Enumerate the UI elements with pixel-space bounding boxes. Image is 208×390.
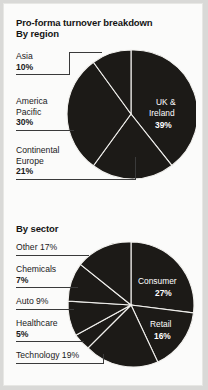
page-subtitle: By region bbox=[16, 28, 59, 40]
callout-america-pacific-value: 30% bbox=[16, 117, 48, 128]
pie-label-consumer: Consumer bbox=[138, 276, 177, 286]
callout-technology-label: Technology 19% bbox=[16, 350, 79, 360]
callout-asia: Asia 10% bbox=[16, 51, 33, 72]
callout-technology: Technology 19% bbox=[16, 350, 79, 361]
pie-label-retail: Retail bbox=[150, 319, 172, 329]
region-pie-chart: UK & Ireland 39% bbox=[66, 48, 196, 180]
callout-other-rule bbox=[16, 255, 89, 256]
callout-america-pacific: America Pacific 30% bbox=[16, 96, 48, 128]
callout-continental-europe-value: 21% bbox=[16, 166, 59, 177]
pie-label-retail-pct: 16% bbox=[154, 331, 171, 341]
pie-label-uk-pct: 39% bbox=[155, 120, 172, 130]
callout-asia-value: 10% bbox=[16, 62, 33, 73]
sector-chart-panel: By sector Consumer 27% bbox=[4, 204, 202, 385]
callout-asia-label: Asia bbox=[16, 51, 33, 62]
callout-other-label: Other 17% bbox=[16, 242, 57, 252]
callout-chemicals-value: 7% bbox=[16, 275, 56, 286]
callout-continental-europe-label1: Continental bbox=[16, 145, 59, 156]
callout-america-pacific-label1: America bbox=[16, 96, 48, 107]
callout-continental-europe-leader-vertical bbox=[135, 157, 136, 180]
pie-label-uk-line2: Ireland bbox=[149, 108, 175, 118]
callout-continental-europe-rule bbox=[16, 179, 136, 180]
callout-america-pacific-rule bbox=[16, 130, 74, 131]
page-title: Pro-forma turnover breakdown bbox=[16, 17, 153, 29]
pie-label-uk-line1: UK & bbox=[156, 97, 176, 107]
sector-pie-chart: Consumer 27% Retail 16% bbox=[66, 239, 196, 371]
callout-chemicals-label: Chemicals bbox=[16, 264, 56, 275]
callout-continental-europe: Continental Europe 21% bbox=[16, 145, 59, 177]
callout-technology-leader-vertical bbox=[103, 354, 104, 364]
callout-healthcare: Healthcare 5% bbox=[16, 318, 58, 339]
callout-healthcare-label: Healthcare bbox=[16, 318, 58, 329]
callout-auto-label: Auto 9% bbox=[16, 296, 49, 306]
callout-america-pacific-label2: Pacific bbox=[16, 107, 48, 118]
region-chart-panel: Pro-forma turnover breakdown By region U… bbox=[4, 4, 202, 204]
callout-auto: Auto 9% bbox=[16, 296, 49, 307]
callout-technology-rule bbox=[16, 363, 104, 364]
pie-label-consumer-pct: 27% bbox=[155, 288, 172, 298]
callout-asia-leader-horizontal bbox=[69, 52, 102, 53]
callout-healthcare-rule bbox=[16, 341, 84, 342]
callout-asia-leader-vertical bbox=[69, 52, 70, 75]
infographic-card: Pro-forma turnover breakdown By region U… bbox=[4, 4, 202, 385]
callout-auto-rule bbox=[16, 309, 74, 310]
callout-chemicals: Chemicals 7% bbox=[16, 264, 56, 285]
callout-other: Other 17% bbox=[16, 242, 57, 253]
callout-healthcare-value: 5% bbox=[16, 329, 58, 340]
callout-chemicals-rule bbox=[16, 287, 78, 288]
callout-asia-rule bbox=[16, 74, 69, 75]
callout-continental-europe-label2: Europe bbox=[16, 156, 59, 167]
section-title-by-sector: By sector bbox=[16, 223, 58, 235]
